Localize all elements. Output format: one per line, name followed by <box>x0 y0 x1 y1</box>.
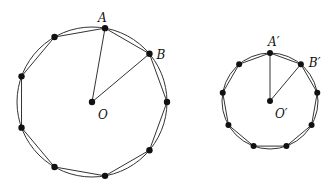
label-a: A <box>97 11 107 25</box>
radius-to-a <box>92 28 105 102</box>
vertex-dot <box>18 73 24 79</box>
center-dot <box>89 99 95 105</box>
vertex-dot <box>309 122 315 128</box>
vertex-dot <box>18 124 24 130</box>
large-circle-diagram <box>17 25 170 179</box>
label-a-prime: A′ <box>267 35 280 49</box>
vertex-dot <box>251 143 257 149</box>
label-o-prime: O′ <box>275 107 288 121</box>
vertex-dot <box>102 25 108 31</box>
vertex-dot <box>51 34 57 40</box>
vertex-dot <box>164 99 170 105</box>
vertex-dot <box>236 61 242 67</box>
vertex-dot <box>225 122 231 128</box>
vertex-dot <box>146 147 152 153</box>
small-circle-diagram <box>220 50 321 149</box>
figure-canvas: A B O A′ B′ O′ <box>0 0 336 189</box>
vertex-dot <box>314 90 320 96</box>
radius-to-b <box>92 54 149 102</box>
vertex-dot <box>220 90 226 96</box>
vertex-dot <box>298 61 304 67</box>
radius-to-b <box>270 64 301 101</box>
center-dot <box>267 98 273 104</box>
label-b: B <box>155 48 165 62</box>
vertex-dot <box>102 173 108 179</box>
vertex-dot <box>51 164 57 170</box>
vertex-dot <box>146 51 152 57</box>
label-b-prime: B′ <box>308 56 321 70</box>
label-o: O <box>98 108 108 122</box>
vertex-dot <box>283 143 289 149</box>
vertex-dot <box>267 50 273 56</box>
